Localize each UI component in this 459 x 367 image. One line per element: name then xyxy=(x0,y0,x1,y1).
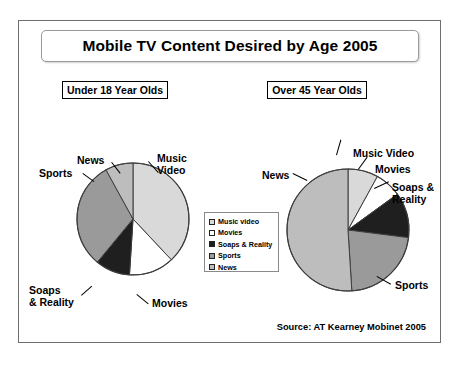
pie-label-soaps-line2: & Reality xyxy=(29,296,87,308)
page-title: Mobile TV Content Desired by Age 2005 xyxy=(82,37,377,55)
pie-label-music-video-line2: Video xyxy=(157,164,203,176)
legend-item-label: News xyxy=(218,263,237,272)
chart-subtitle-under-18: Under 18 Year Olds xyxy=(62,81,168,99)
pie-label-sports: Sports xyxy=(39,167,72,179)
legend-item[interactable]: Music video xyxy=(209,216,275,227)
leader-line-movies-left xyxy=(136,294,148,304)
legend-item-label: Sports xyxy=(218,251,241,260)
pie-label-music-video: Music Video xyxy=(157,152,203,176)
pie-label-soaps-line1: Soaps & xyxy=(392,181,446,193)
pie-label-soaps-line1: Soaps xyxy=(29,284,87,296)
pie-label-soaps-line2: Reality xyxy=(392,193,446,205)
pie-label-music-video: Music Video xyxy=(353,147,414,159)
chart-subtitle-label: Over 45 Year Olds xyxy=(272,84,362,96)
legend-item[interactable]: Sports xyxy=(209,250,275,261)
chart-subtitle-label: Under 18 Year Olds xyxy=(67,84,163,96)
black-swatch xyxy=(209,241,215,247)
pie-label-soaps-reality: Soaps & Reality xyxy=(392,181,446,205)
pie-label-news: News xyxy=(77,154,104,166)
source-note: Source: AT Kearney Mobinet 2005 xyxy=(277,322,426,332)
leader-line-music-right xyxy=(336,140,341,156)
legend-item[interactable]: Movies xyxy=(209,227,275,238)
pie-label-soaps-reality: Soaps & Reality xyxy=(29,284,87,308)
white-swatch xyxy=(209,230,215,236)
legend-item-label: Music video xyxy=(218,217,259,226)
pie-label-sports: Sports xyxy=(395,279,428,291)
legend-item-label: Movies xyxy=(218,228,242,237)
slide-frame: Mobile TV Content Desired by Age 2005 Un… xyxy=(18,20,441,343)
legend-item[interactable]: News xyxy=(209,262,275,273)
chart-subtitle-over-45: Over 45 Year Olds xyxy=(267,81,367,99)
pie-slice xyxy=(287,169,352,291)
pie-label-movies: Movies xyxy=(375,163,411,175)
chart-legend: Music videoMoviesSoaps & RealitySportsNe… xyxy=(204,212,279,272)
light-gray-swatch xyxy=(209,219,215,225)
legend-item[interactable]: Soaps & Reality xyxy=(209,239,275,250)
pie-label-music-video-line1: Music xyxy=(157,152,203,164)
legend-item-label: Soaps & Reality xyxy=(218,240,272,249)
gray-swatch xyxy=(209,264,215,270)
slide-title-box: Mobile TV Content Desired by Age 2005 xyxy=(41,30,419,62)
pie-label-movies: Movies xyxy=(152,297,188,309)
medium-gray-swatch xyxy=(209,253,215,259)
pie-label-news: News xyxy=(262,169,289,181)
